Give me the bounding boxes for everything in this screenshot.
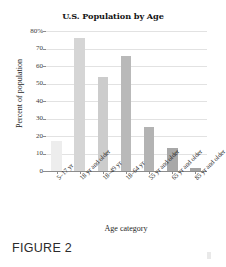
plot-area [45,31,207,171]
x-axis-tick-mark [126,171,127,174]
y-axis-tick-mark [43,101,46,102]
y-axis-tick-labels: 01020304050607080% [20,31,43,171]
y-axis-tick-label: 60 [21,63,43,70]
x-axis-title: Age category [45,224,207,233]
y-axis-tick-mark [43,31,46,32]
y-axis-tick-mark [43,171,46,172]
bar [51,141,62,171]
page-corner-artifact [207,252,211,259]
y-axis-tick-label: 10 [21,150,43,157]
x-axis-tick-mark [57,171,58,174]
figure-caption: FIGURE 2 [12,241,72,255]
y-axis-tick-mark [43,66,46,67]
chart-title: U.S. Population by Age [0,11,226,21]
y-axis-tick-mark [43,119,46,120]
y-axis-tick-mark [43,84,46,85]
y-axis-tick-label: 80% [21,28,43,35]
x-axis-tick-mark [103,171,104,174]
y-axis-tick-mark [43,49,46,50]
y-axis-tick-label: 40 [21,98,43,105]
y-axis-tick-label: 70 [21,45,43,52]
gridline [45,31,207,32]
y-axis-tick-mark [43,154,46,155]
x-axis-tick-mark [195,171,196,174]
y-axis-tick-label: 20 [21,133,43,140]
bar [74,38,85,171]
figure-container: U.S. Population by Age Percent of popula… [0,0,226,267]
y-axis-tick-label: 0 [21,168,43,175]
x-axis-tick-mark [80,171,81,174]
x-axis-tick-mark [149,171,150,174]
y-axis-tick-label: 50 [21,80,43,87]
bar [121,56,132,172]
y-axis-tick-mark [43,136,46,137]
x-axis-tick-mark [172,171,173,174]
gridline [45,49,207,50]
y-axis-tick-label: 30 [21,115,43,122]
